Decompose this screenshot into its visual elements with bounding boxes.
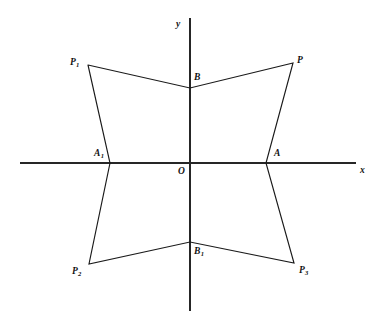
x-axis-label: x [360,166,365,176]
point-label-P3: P3 [299,266,308,276]
point-label-B1: B1 [194,247,204,257]
point-label-P: P [297,56,303,66]
geometry-figure: y x O P1 P B A1 A B1 P2 P3 [0,0,379,323]
figure-canvas [0,0,379,323]
origin-label: O [178,167,185,177]
point-label-P2: P2 [72,267,81,277]
point-label-P1: P1 [70,58,79,68]
y-axis-label: y [176,20,180,30]
point-label-A1: A1 [94,149,104,159]
point-label-B: B [194,73,200,83]
point-label-A: A [274,149,280,159]
